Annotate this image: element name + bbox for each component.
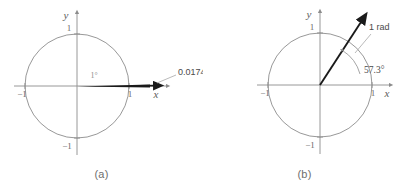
panel-b-diagram: 1 −1 −1 1 x y 57.3° 1 rad (203, 0, 406, 186)
terminal-ray (320, 22, 361, 85)
panel-b: 1 −1 −1 1 x y 57.3° 1 rad (b) (203, 0, 406, 186)
tick-label-y-negative: −1 (305, 140, 315, 150)
angle-arc (343, 51, 361, 75)
tick-label-y-positive: 1 (310, 22, 315, 32)
annotation-leader-line (355, 34, 371, 53)
panel-a-caption: (a) (0, 168, 203, 180)
tick-label-x-negative: −1 (260, 88, 270, 98)
x-axis-label: x (384, 87, 390, 99)
x-axis-label: x (153, 88, 159, 100)
angle-radians-annotation: 0.01745 rad (178, 67, 203, 77)
tick-label-y-positive: 1 (67, 23, 72, 33)
panel-a-diagram: 1 −1 −1 1 x y 1° 0.01745 rad (0, 0, 203, 186)
unit-circle-radian-figure: 1 −1 −1 1 x y 1° 0.01745 rad (a) (0, 0, 406, 186)
tick-label-y-negative: −1 (62, 141, 72, 151)
angle-radians-annotation: 1 rad (369, 22, 390, 32)
tick-label-x-positive: 1 (371, 88, 376, 98)
tick-label-x-negative: −1 (17, 89, 27, 99)
y-axis-label: y (63, 9, 69, 21)
panel-b-caption: (b) (203, 168, 406, 180)
panel-a: 1 −1 −1 1 x y 1° 0.01745 rad (a) (0, 0, 203, 186)
annotation-leader-line (157, 75, 176, 83)
angle-degrees-label: 1° (90, 71, 97, 80)
angle-degrees-label: 57.3° (364, 65, 385, 75)
y-axis-label: y (306, 8, 312, 20)
tick-label-x-positive: 1 (128, 89, 133, 99)
